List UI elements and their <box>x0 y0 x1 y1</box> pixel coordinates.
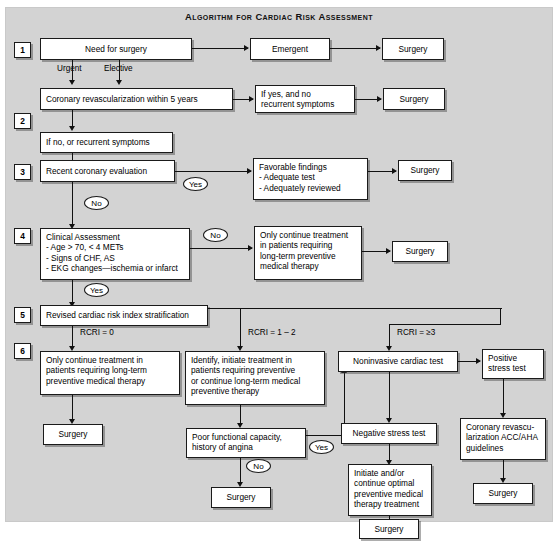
node-surgery-1[interactable]: Surgery <box>382 38 444 60</box>
edge-recent-to-favorable <box>175 171 251 172</box>
edge-need-to-emergent <box>192 48 248 49</box>
arrowhead-elective <box>116 80 122 85</box>
node-surgery-3[interactable]: Surgery <box>398 160 452 181</box>
step-number-5: 5 <box>14 307 31 323</box>
node-if-yes-no-recurrent-text: If yes, and no recurrent symptoms <box>261 89 334 109</box>
step-number-6: 6 <box>14 343 31 359</box>
node-surgery-7[interactable]: Surgery <box>359 519 419 539</box>
node-if-yes-no-recurrent[interactable]: If yes, and no recurrent symptoms <box>255 85 355 113</box>
arrowhead-favorable <box>247 168 252 174</box>
node-clinical-assessment-text: Clinical Assessment - Age > 70, < 4 METs… <box>46 232 178 273</box>
node-identify-initiate-text: Identify, initiate treatment in patients… <box>191 355 300 396</box>
node-negative-stress-test[interactable]: Negative stress test <box>341 423 437 444</box>
edge-clinical-to-rcri <box>72 280 73 304</box>
edge-urgent <box>72 60 73 82</box>
page-title: Algorithm for Cardiac Risk Assessment <box>0 11 558 22</box>
edge-label-no-3: No <box>84 196 109 210</box>
edge-label-no-6: No <box>246 459 271 473</box>
node-surgery-4[interactable]: Surgery <box>392 241 448 262</box>
arrowhead-onlycontinue-4 <box>248 245 253 251</box>
node-only-continue-treatment-6[interactable]: Only continue treatment in patients requ… <box>40 351 180 395</box>
edge-coronary-to-surgery <box>503 460 504 480</box>
arrowhead-surgery-2 <box>377 96 382 102</box>
step-number-1: 1 <box>14 42 31 58</box>
edge-poorfunc-yes-h <box>306 435 346 436</box>
edge-rcri-3-jog <box>389 324 501 325</box>
edge-positive-to-coronary <box>503 379 504 415</box>
edge-label-rcri-1-2: RCRI = 1 – 2 <box>248 328 296 337</box>
arrowhead-emergent <box>244 45 249 51</box>
node-only-continue-treatment-6-text: Only continue treatment in patients requ… <box>46 355 147 386</box>
node-surgery-2[interactable]: Surgery <box>383 88 445 110</box>
node-if-no-recurrent[interactable]: If no, or recurrent symptoms <box>40 132 173 153</box>
edge-label-yes-6: Yes <box>309 440 334 454</box>
edge-label-yes-3: Yes <box>183 177 208 191</box>
node-coronary-revascularization[interactable]: Coronary revascularization within 5 year… <box>40 88 233 110</box>
edge-rcri-3 <box>389 324 390 348</box>
node-surgery-5[interactable]: Surgery <box>43 424 103 445</box>
step-number-3: 3 <box>14 164 31 180</box>
edge-label-yes-4: Yes <box>84 283 109 297</box>
node-surgery-6[interactable]: Surgery <box>211 487 271 508</box>
edge-clinical-to-onlycontinue <box>190 248 252 249</box>
arrowhead-ifno <box>69 126 75 131</box>
edge-label-rcri-0: RCRI = 0 <box>80 328 114 337</box>
edge-label-urgent: Urgent <box>57 64 82 73</box>
edge-onlycontinue6-to-surgery <box>72 395 73 421</box>
node-emergent[interactable]: Emergent <box>250 38 330 60</box>
node-surgery-8[interactable]: Surgery <box>473 483 533 504</box>
edge-identify-to-poorfunc <box>240 405 241 425</box>
node-favorable-findings[interactable]: Favorable findings - Adequate test - Ade… <box>253 158 368 200</box>
edge-rcri-0 <box>72 326 73 348</box>
edge-recent-to-clinical <box>72 182 73 226</box>
node-positive-stress-test-text: Positive stress test <box>488 353 526 373</box>
node-coronary-revascularization-acc-aha-text: Coronary revascu- larization ACC/AHA gui… <box>466 422 538 453</box>
edge-rcri-bus <box>208 308 502 309</box>
edge-rcri-bus-to-rcri3 <box>500 308 501 324</box>
node-poor-functional-capacity[interactable]: Poor functional capacity, history of ang… <box>186 428 306 458</box>
node-only-continue-treatment-4-text: Only continue treatment in patients requ… <box>260 230 348 271</box>
node-clinical-assessment[interactable]: Clinical Assessment - Age > 70, < 4 METs… <box>40 228 190 280</box>
arrowhead-ifyes <box>249 96 254 102</box>
node-only-continue-treatment-4[interactable]: Only continue treatment in patients requ… <box>254 226 362 280</box>
node-positive-stress-test[interactable]: Positive stress test <box>482 349 544 379</box>
node-recent-coronary-evaluation[interactable]: Recent coronary evaluation <box>40 160 175 182</box>
arrowhead-surgery-1 <box>376 45 381 51</box>
step-number-4: 4 <box>14 228 31 244</box>
edge-rcri-1-2 <box>240 308 241 348</box>
node-need-for-surgery[interactable]: Need for surgery <box>40 38 192 60</box>
edge-label-no-4: No <box>203 228 228 242</box>
edge-emergent-to-surgery <box>330 48 380 49</box>
node-identify-initiate[interactable]: Identify, initiate treatment in patients… <box>185 351 325 405</box>
arrowhead-surgery-3 <box>392 168 397 174</box>
edge-elective <box>119 60 120 82</box>
node-poor-functional-capacity-text: Poor functional capacity, history of ang… <box>192 432 282 452</box>
edge-poorfunc-no <box>240 458 241 484</box>
flowchart-canvas: Algorithm for Cardiac Risk Assessment 1 … <box>0 0 558 545</box>
arrowhead-positive-stress <box>476 358 481 364</box>
step-number-2: 2 <box>14 113 31 129</box>
node-favorable-findings-text: Favorable findings - Adequate test - Ade… <box>259 162 341 193</box>
node-initiate-optimal-text: Initiate and/or continue optimal prevent… <box>354 468 423 509</box>
edge-label-rcri-3: RCRI = ≥3 <box>397 328 435 337</box>
arrowhead-urgent <box>69 80 75 85</box>
edge-noninvasive-to-negative <box>389 372 390 420</box>
node-coronary-revascularization-acc-aha[interactable]: Coronary revascu- larization ACC/AHA gui… <box>460 418 546 460</box>
arrowhead-surgery-4 <box>386 248 391 254</box>
node-noninvasive-cardiac-test[interactable]: Noninvasive cardiac test <box>338 351 458 372</box>
node-rcri-stratification[interactable]: Revised cardiac risk index stratificatio… <box>40 305 208 326</box>
node-initiate-optimal[interactable]: Initiate and/or continue optimal prevent… <box>348 464 432 516</box>
